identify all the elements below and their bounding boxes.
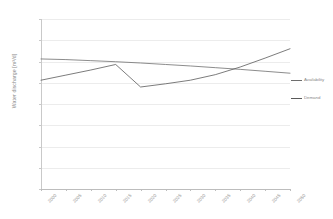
x-tick-label: 2020	[147, 193, 158, 204]
x-tick-label: 2035	[221, 193, 232, 204]
legend-item[interactable]: Availability	[291, 76, 333, 94]
plot-area: 4000000350000030000002500000200000015000…	[41, 19, 290, 189]
legend-swatch	[291, 98, 302, 99]
legend-label: Availability	[304, 77, 324, 82]
line-chart: Water discharge [m³/d] 40000003500000300…	[0, 0, 333, 219]
x-tick-mark	[166, 189, 167, 191]
x-tick-label: 2025	[171, 193, 182, 204]
x-tick-label: 2050	[296, 193, 307, 204]
series-line-availability	[41, 59, 290, 73]
x-tick-mark	[290, 189, 291, 191]
legend-label: Demand	[304, 95, 320, 100]
x-tick-label: 2015	[122, 193, 133, 204]
x-tick-label: 2005	[72, 193, 83, 204]
x-tick-mark	[91, 189, 92, 191]
chart-legend: AvailabilityDemand	[291, 76, 333, 112]
x-tick-label: 2000	[47, 193, 58, 204]
x-tick-mark	[240, 189, 241, 191]
x-tick-mark	[265, 189, 266, 191]
x-tick-mark	[141, 189, 142, 191]
x-tick-label: 2045	[271, 193, 282, 204]
x-tick-label: 2030	[196, 193, 207, 204]
legend-swatch	[291, 80, 302, 81]
x-tick-mark	[116, 189, 117, 191]
x-tick-mark	[190, 189, 191, 191]
x-tick-mark	[215, 189, 216, 191]
x-tick-mark	[41, 189, 42, 191]
series-lines	[41, 19, 290, 189]
x-tick-label: 2040	[246, 193, 257, 204]
y-axis-title: Water discharge [m³/d]	[11, 41, 17, 121]
x-tick-label: 2010	[97, 193, 108, 204]
legend-item[interactable]: Demand	[291, 94, 333, 112]
series-line-demand	[41, 49, 290, 87]
x-tick-mark	[66, 189, 67, 191]
